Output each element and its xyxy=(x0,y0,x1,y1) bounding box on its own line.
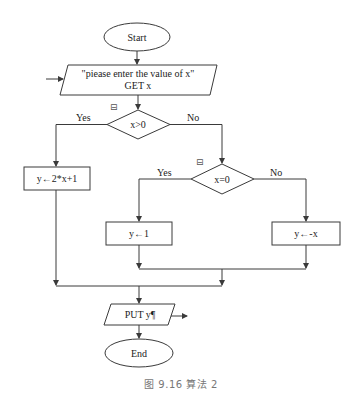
assign3-node: y←-x xyxy=(272,222,340,245)
assign2-node: y←1 xyxy=(106,222,172,245)
edge-decision1-yes xyxy=(56,125,107,167)
decision2-marker-icon: ⊟ xyxy=(196,157,204,167)
start-node: Start xyxy=(104,23,170,51)
decision2-no-label: No xyxy=(270,167,282,178)
assign2-label: y←1 xyxy=(129,228,149,239)
decision1-yes-label: Yes xyxy=(76,112,91,123)
edge-decision2-no xyxy=(254,179,306,221)
assign3-label: y←-x xyxy=(294,228,317,239)
decision2-node: x=0 xyxy=(191,164,254,194)
decision1-marker-icon: ⊟ xyxy=(110,102,118,112)
flowchart-canvas: Start "piease enter the value of x" GET … xyxy=(0,0,362,405)
decision2-yes-label: Yes xyxy=(157,167,172,178)
decision1-no-label: No xyxy=(187,112,199,123)
assign1-node: y←2*x+1 xyxy=(24,167,90,190)
decision2-label: x=0 xyxy=(214,174,230,185)
end-label: End xyxy=(131,348,147,359)
decision1-node: x>0 xyxy=(107,110,170,139)
input-get-label: GET x xyxy=(125,80,152,91)
input-prompt-label: "piease enter the value of x" xyxy=(82,68,195,79)
end-node: End xyxy=(105,339,173,367)
assign1-label: y←2*x+1 xyxy=(37,173,78,184)
start-label: Start xyxy=(128,32,147,43)
input-node: "piease enter the value of x" GET x xyxy=(60,65,217,95)
figure-caption: 图 9.16 算法 2 xyxy=(144,378,218,390)
edge-decision2-yes xyxy=(139,179,191,221)
output-label: PUT y¶ xyxy=(125,309,156,320)
decision1-label: x>0 xyxy=(130,119,146,130)
output-node: PUT y¶ xyxy=(104,304,175,325)
